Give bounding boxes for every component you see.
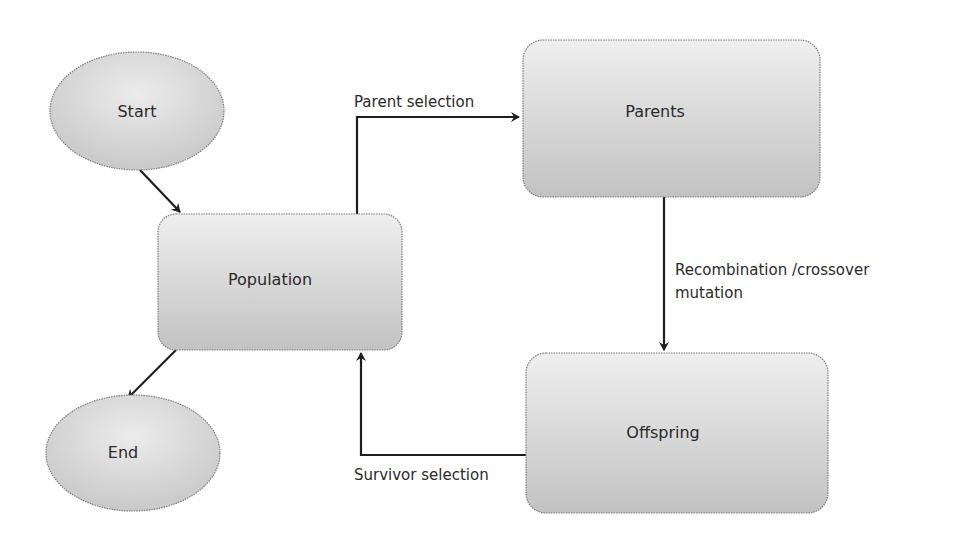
- flow-diagram: Start Population Parents Offspring End P…: [0, 0, 972, 545]
- edge-label-parent-selection: Parent selection: [354, 93, 474, 111]
- edge-offspring-to-population: [361, 353, 526, 455]
- node-offspring: Offspring: [526, 353, 828, 513]
- node-parents: Parents: [523, 40, 820, 197]
- node-end-label: End: [108, 443, 138, 462]
- node-start: Start: [50, 52, 224, 170]
- node-start-label: Start: [117, 102, 156, 121]
- edge-label-recombination-line1: Recombination /crossover: [675, 261, 870, 279]
- edge-population-to-parents: [357, 117, 519, 214]
- node-parents-label: Parents: [625, 102, 685, 121]
- node-population-label: Population: [228, 270, 312, 289]
- edge-population-to-end: [128, 350, 176, 398]
- edge-label-survivor-selection: Survivor selection: [354, 466, 489, 484]
- edge-start-to-population: [140, 170, 180, 212]
- edge-label-recombination-line2: mutation: [675, 284, 743, 302]
- node-population: Population: [158, 214, 402, 350]
- node-offspring-label: Offspring: [626, 423, 699, 442]
- node-end: End: [46, 395, 220, 511]
